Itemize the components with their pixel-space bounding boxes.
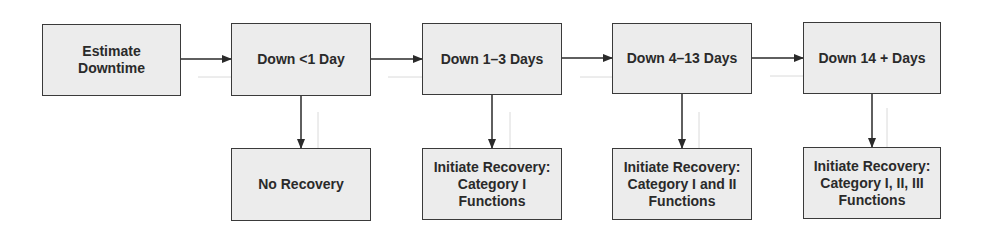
box-label: Down 4–13 Days	[627, 50, 738, 67]
box-down-1-3-days: Down 1–3 Days	[422, 23, 562, 95]
box-recovery-cat12: Initiate Recovery: Category I and II Fun…	[612, 148, 752, 220]
box-label: Down <1 Day	[257, 51, 345, 68]
box-no-recovery: No Recovery	[231, 148, 371, 221]
box-down-14-days: Down 14 + Days	[803, 22, 941, 94]
box-label: Initiate Recovery: Category I and II Fun…	[624, 159, 741, 210]
box-down-lt1-day: Down <1 Day	[231, 23, 371, 96]
box-recovery-cat1: Initiate Recovery: Category I Functions	[422, 148, 562, 220]
box-label: No Recovery	[258, 176, 344, 193]
box-label: Down 14 + Days	[819, 50, 926, 67]
box-label: Initiate Recovery: Category I, II, III F…	[814, 158, 931, 209]
box-label: Initiate Recovery: Category I Functions	[434, 159, 551, 210]
box-label: Down 1–3 Days	[441, 51, 544, 68]
box-recovery-cat123: Initiate Recovery: Category I, II, III F…	[803, 147, 941, 219]
box-estimate-downtime: Estimate Downtime	[42, 24, 181, 96]
box-down-4-13-days: Down 4–13 Days	[612, 23, 752, 94]
box-label: Estimate Downtime	[78, 43, 145, 77]
